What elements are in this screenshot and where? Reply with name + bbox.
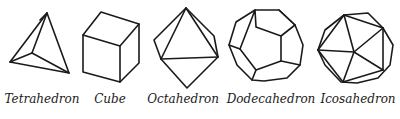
cube-icon (83, 12, 139, 82)
label-tetrahedron: Tetrahedron (4, 92, 79, 106)
octahedron-icon (154, 8, 218, 88)
label-dodecahedron: Dodecahedron (227, 92, 316, 106)
label-cube: Cube (94, 92, 126, 106)
dodecahedron-icon (229, 10, 303, 81)
label-icosahedron: Icosahedron (320, 92, 395, 106)
label-octahedron: Octahedron (147, 92, 219, 106)
tetrahedron-icon (10, 13, 69, 73)
icosahedron-icon (318, 13, 393, 83)
